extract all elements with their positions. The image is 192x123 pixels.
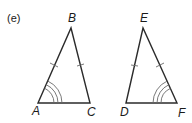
- vertex-f-label: F: [178, 106, 186, 120]
- vertex-a-label: A: [31, 104, 40, 118]
- vertex-d-label: D: [120, 105, 129, 119]
- triangle-abc: A B C: [31, 11, 96, 119]
- vertex-b-label: B: [68, 11, 76, 25]
- geometry-diagram: (e) A B C D E F: [0, 0, 192, 123]
- vertex-c-label: C: [87, 105, 96, 119]
- part-label: (e): [7, 12, 20, 24]
- triangle-def: D E F: [120, 11, 186, 120]
- tick-de: [131, 65, 138, 66]
- triangle-abc-outline: [38, 28, 90, 103]
- vertex-e-label: E: [140, 11, 149, 25]
- angle-f-triple-arc: [153, 81, 170, 103]
- angle-a-triple-arc: [45, 81, 63, 103]
